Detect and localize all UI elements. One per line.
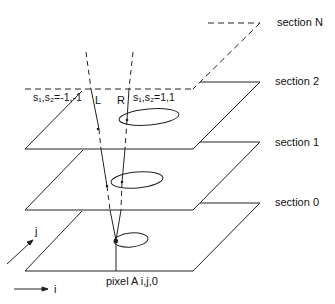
ray-right: [116, 52, 133, 240]
left-shift-label: s₁,s₂=-1,-1: [33, 92, 82, 103]
stacked-sections-diagram: [0, 0, 335, 304]
section-n-plane: [25, 23, 260, 89]
blob-section-1: [110, 170, 163, 190]
pixel-a-label: pixel A i,j,0: [106, 276, 158, 287]
section-0-label: section 0: [275, 197, 319, 208]
section-2-label: section 2: [275, 76, 319, 87]
ray-right-label: R: [117, 95, 125, 106]
i-axis-arrow: [14, 287, 48, 291]
j-axis-label: j: [35, 226, 37, 237]
j-axis-arrow: [7, 240, 33, 264]
ray-left-label: L: [95, 95, 101, 106]
blob-section-0: [113, 232, 148, 249]
ray-left: [86, 52, 116, 240]
i-axis-label: i: [54, 284, 56, 295]
section-n-label: section N: [277, 17, 323, 28]
section-0-plane: [25, 203, 260, 271]
right-shift-label: s₁,s₂=1,1: [133, 92, 175, 103]
section-1-plane: [25, 142, 260, 210]
section-1-label: section 1: [275, 137, 319, 148]
